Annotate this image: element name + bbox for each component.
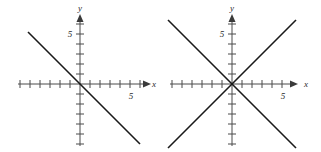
y-axis-label-right: y [229,3,234,13]
y-tick-label-5-left: 5 [68,29,73,39]
coordinate-plot-left: x y 5 5 [0,0,161,152]
y-axis-label-left: y [77,3,82,13]
x-axis-arrow-right [290,81,298,88]
x-tick-label-5-right: 5 [281,91,286,101]
x-tick-label-5-left: 5 [129,91,134,101]
x-axis-label-left: x [151,79,156,89]
y-axis-arrow-right [229,14,236,22]
figure-container: x y 5 5 [0,0,321,152]
right-plot-svg: x y 5 5 [160,0,321,152]
coordinate-plot-right: x y 5 5 [160,0,321,152]
graph-line-negative-slope [28,32,140,144]
left-plot-svg: x y 5 5 [0,0,161,152]
x-axis-arrow-left [143,81,151,88]
y-axis-arrow-left [77,14,84,22]
y-tick-label-5-right: 5 [220,29,225,39]
x-axis-label-right: x [303,79,308,89]
